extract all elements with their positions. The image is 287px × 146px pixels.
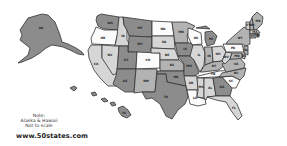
state-label-de: DE	[242, 54, 247, 58]
state-label-mn: MN	[178, 30, 184, 34]
state-label-ri: RI	[256, 33, 259, 37]
state-label-ak: AK	[39, 26, 44, 30]
state-label-tx: TX	[164, 95, 169, 99]
state-label-il: IL	[197, 53, 200, 57]
state-label-wi: WI	[194, 36, 198, 40]
state-mi-part-1[interactable]	[196, 26, 210, 29]
state-fl[interactable]	[207, 96, 242, 120]
state-label-oh: OH	[215, 52, 221, 56]
state-label-hi: HI	[122, 111, 126, 115]
state-label-ks: KS	[170, 63, 175, 67]
state-label-ms: MS	[198, 85, 203, 89]
state-label-al: AL	[208, 86, 212, 90]
state-label-ca: CA	[94, 62, 99, 66]
state-ak[interactable]	[18, 14, 84, 63]
state-label-nh: NH	[249, 23, 255, 27]
state-label-nv: NV	[108, 53, 114, 57]
state-label-tn: TN	[211, 72, 216, 76]
state-label-id: ID	[121, 34, 125, 38]
state-label-mi: MI	[209, 37, 213, 41]
state-label-co: CO	[146, 58, 151, 62]
state-hi-part-3[interactable]	[110, 102, 116, 106]
state-label-or: OR	[101, 36, 107, 40]
state-label-wa: WA	[107, 21, 113, 25]
state-label-mo: MO	[186, 64, 192, 68]
state-label-me: ME	[255, 19, 260, 23]
state-label-sd: SD	[162, 40, 167, 44]
state-label-va: VA	[234, 62, 239, 66]
note-line-3: Not to scale	[20, 124, 58, 129]
state-label-pa: PA	[231, 46, 236, 50]
state-label-md: MD	[234, 54, 240, 58]
state-label-wy: WY	[137, 42, 143, 46]
site-url[interactable]: www.50states.com	[16, 132, 88, 140]
state-label-ga: GA	[220, 85, 225, 89]
state-label-ny: NY	[238, 36, 244, 40]
state-label-nd: ND	[160, 27, 166, 31]
state-label-ok: OK	[174, 75, 180, 79]
state-label-in: IN	[207, 54, 211, 58]
state-label-ne: NE	[165, 53, 170, 57]
state-label-nc: NC	[234, 71, 240, 75]
state-label-la: LA	[193, 96, 198, 100]
state-label-wv: WV	[223, 55, 229, 59]
state-label-fl: FL	[232, 106, 236, 110]
state-label-nj: NJ	[244, 48, 248, 52]
state-hi-part-2[interactable]	[101, 98, 108, 102]
state-label-nm: NM	[143, 79, 149, 83]
state-hi-part-1[interactable]	[91, 92, 97, 96]
state-hi[interactable]	[70, 86, 77, 91]
state-label-ar: AR	[189, 81, 194, 85]
scale-note: Note: Alaska & Hawaii Not to scale	[20, 114, 58, 128]
